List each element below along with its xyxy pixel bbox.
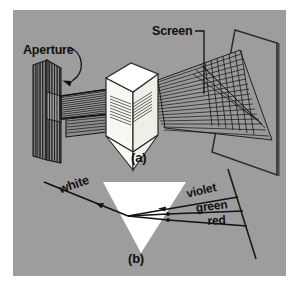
aperture-plate: [33, 60, 61, 163]
caption-panel-b: (b): [128, 251, 144, 266]
figure-container: Aperture Screen (a) white violet green r…: [0, 0, 299, 290]
label-aperture: Aperture: [23, 43, 74, 57]
label-red-ray: red: [207, 213, 226, 228]
caption-panel-a: (a): [131, 150, 146, 165]
label-screen: Screen: [152, 24, 193, 38]
dispersed-beam: [158, 50, 272, 140]
screen-line-b: [228, 169, 256, 259]
